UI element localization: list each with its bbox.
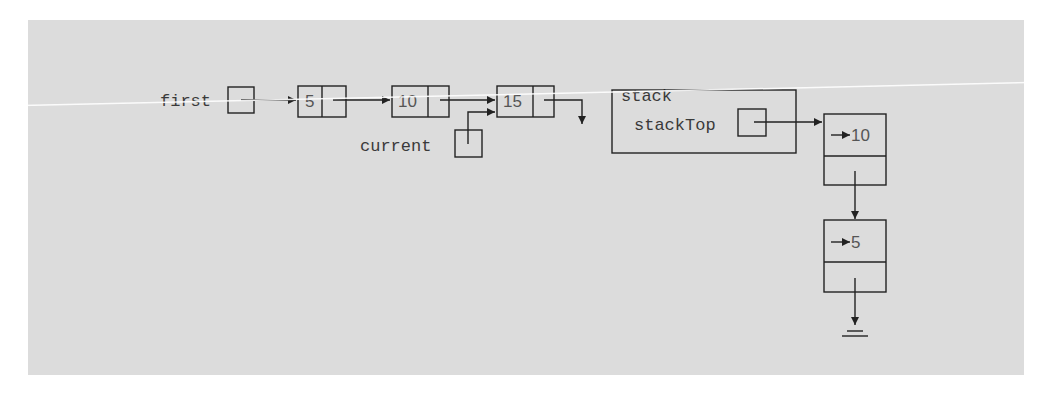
stacktop-label: stackTop [634,116,716,135]
null-ground-icon [842,331,868,336]
stack-node-info: 10 [851,126,870,145]
stack-node-info: 5 [851,233,860,252]
diagram-canvas: first 5 10 15 current stack stackTop 10 [0,0,1054,398]
node-info: 5 [305,92,314,111]
node-info: 10 [398,92,417,111]
current-label: current [360,137,431,156]
list-node: 15 [497,86,554,117]
list-node: 5 [298,86,346,117]
null-link-arrow [544,100,582,124]
list-node: 10 [392,86,449,117]
